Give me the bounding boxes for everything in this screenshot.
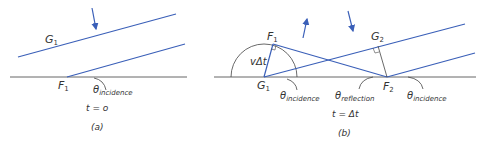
right-angle-marker-g2 — [373, 48, 379, 53]
g2-f2-segment — [378, 46, 387, 77]
reflection-diagram: G1 F1 θincidence t = o (a) F1 vΔt G1 G2 … — [0, 0, 486, 144]
caption-b: (b) — [338, 128, 351, 138]
label-g1: G — [257, 79, 266, 92]
svg-text:θincidence: θincidence — [93, 84, 133, 97]
wavefront-upper — [18, 14, 176, 57]
svg-text:G2: G2 — [371, 30, 384, 44]
incident-arrow-icon — [92, 8, 96, 29]
caption-a: (a) — [91, 122, 104, 132]
reflected-arrow-icon — [303, 19, 307, 38]
svg-text:F2: F2 — [383, 80, 394, 94]
angle-arc-incidence-right — [408, 77, 423, 89]
angle-arc-reflection — [359, 77, 373, 89]
panel-b: F1 vΔt G1 G2 F2 θincidence θreflection θ… — [214, 11, 476, 138]
svg-text:θincidence: θincidence — [280, 90, 320, 103]
panel-a: G1 F1 θincidence t = o (a) — [10, 8, 187, 132]
svg-text:G1: G1 — [45, 33, 58, 47]
svg-text:F1: F1 — [267, 30, 278, 44]
label-g2: G — [371, 30, 380, 43]
incident-wavefront-lower — [387, 53, 475, 77]
svg-text:θincidence: θincidence — [407, 90, 447, 103]
incident-arrow-icon — [348, 11, 353, 31]
svg-text:F1: F1 — [58, 79, 69, 93]
angle-arc-incidence-left — [287, 79, 297, 90]
time-label: t = o — [86, 103, 109, 113]
time-label: t = Δt — [332, 109, 359, 119]
wavefront-lower — [67, 44, 185, 77]
label-g1: G — [45, 33, 54, 46]
label-v-dt: vΔt — [250, 56, 268, 67]
svg-text:θreflection: θreflection — [335, 90, 374, 103]
svg-text:G1: G1 — [257, 79, 270, 93]
